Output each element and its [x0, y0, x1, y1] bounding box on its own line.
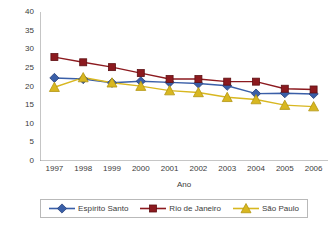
legend-marker-icon: [49, 203, 75, 214]
y-axis-tick-label: 30: [12, 45, 34, 53]
plot-area: [40, 12, 328, 161]
x-axis-tick-label: 2001: [161, 165, 179, 173]
x-axis-tick-label: 2002: [189, 165, 207, 173]
y-axis-tick-label: 20: [12, 83, 34, 91]
data-point-marker: [195, 76, 202, 83]
data-point-marker: [109, 64, 116, 71]
data-point-marker: [58, 204, 67, 213]
data-point-marker: [137, 70, 144, 77]
legend-entry[interactable]: São Paulo: [233, 203, 299, 214]
x-axis-tick-label: 2005: [276, 165, 294, 173]
x-axis-tick-label: 1998: [74, 165, 92, 173]
x-axis-tick-label: 2004: [247, 165, 265, 173]
y-axis-tick-label: 35: [12, 27, 34, 35]
legend-entry[interactable]: Espírito Santo: [49, 203, 128, 214]
legend-marker-icon: [233, 203, 259, 214]
data-point-marker: [310, 86, 317, 93]
series-line: [54, 57, 313, 89]
data-point-marker: [80, 59, 87, 66]
data-point-marker: [49, 82, 59, 91]
data-point-marker: [51, 54, 58, 61]
x-axis-tick-label: 2006: [305, 165, 323, 173]
series-line: [54, 78, 313, 107]
legend-label: São Paulo: [262, 204, 299, 213]
x-axis-tick-label: 1999: [103, 165, 121, 173]
data-point-marker: [78, 73, 88, 82]
data-point-marker: [166, 76, 173, 83]
legend-label: Rio de Janeiro: [169, 204, 221, 213]
legend-marker-icon: [140, 203, 166, 214]
plot-canvas: [40, 12, 328, 161]
x-axis-tick-label: 2000: [132, 165, 150, 173]
data-point-marker: [281, 85, 288, 92]
y-axis-tick-label: 5: [12, 138, 34, 146]
y-axis-tick-label: 0: [12, 157, 34, 165]
legend-entry[interactable]: Rio de Janeiro: [140, 203, 221, 214]
data-point-marker: [50, 73, 59, 82]
chart-legend: Espírito SantoRio de JaneiroSão Paulo: [40, 199, 308, 218]
data-point-marker: [150, 205, 157, 212]
y-axis-tick-labels: 0510152025303540: [10, 12, 34, 161]
y-axis-tick-label: 40: [12, 8, 34, 16]
y-axis-tick-label: 10: [12, 120, 34, 128]
data-point-marker: [253, 78, 260, 85]
y-axis-tick-label: 25: [12, 64, 34, 72]
x-axis-tick-labels: 1997199819992000200120022003200420052006: [40, 165, 328, 179]
legend-label: Espírito Santo: [78, 204, 128, 213]
x-axis-tick-label: 1997: [45, 165, 63, 173]
x-axis-title: Ano: [40, 180, 328, 189]
y-axis-tick-label: 15: [12, 101, 34, 109]
data-point-marker: [224, 78, 231, 85]
x-axis-tick-label: 2003: [218, 165, 236, 173]
line-chart-figure: 0510152025303540 19971998199920002001200…: [0, 0, 336, 229]
